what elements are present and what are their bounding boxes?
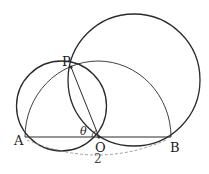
label-P: P [62,54,71,69]
large-circle [68,14,200,146]
label-distance: 2 [94,152,102,166]
geometry-diagram: P A O B θ 2 [0,0,209,174]
point-O [97,135,100,138]
label-B: B [170,140,180,155]
label-A: A [13,133,24,148]
label-theta: θ [80,125,87,138]
semicircle-arc [25,61,171,137]
